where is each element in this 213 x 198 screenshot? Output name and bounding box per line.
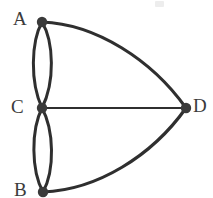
- graph-figure: A C B D: [0, 0, 213, 198]
- edge-layer: [33, 22, 186, 192]
- vertex-label-A: A: [13, 9, 27, 28]
- graph-canvas: [0, 0, 213, 198]
- edge-C-B-right: [42, 108, 52, 192]
- vertex-dot-D: [181, 103, 191, 113]
- scan-artifact: [155, 1, 164, 7]
- edge-B-D: [43, 108, 186, 192]
- edge-A-C-left: [33, 22, 42, 108]
- edge-A-C-right: [42, 22, 51, 108]
- vertex-dot-A: [37, 17, 47, 27]
- vertex-label-B: B: [14, 180, 27, 198]
- vertex-label-C: C: [11, 97, 24, 116]
- vertex-dot-C: [37, 103, 47, 113]
- vertex-dot-B: [38, 187, 48, 197]
- edge-C-B-left: [34, 108, 43, 192]
- vertex-label-D: D: [193, 96, 207, 115]
- edge-A-D: [42, 22, 186, 108]
